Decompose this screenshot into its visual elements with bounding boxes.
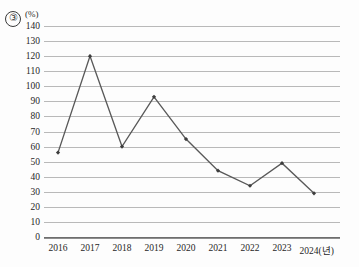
plot-area: 0102030405060708090100110120130140 20162… [44,26,340,237]
y-tick-label: 90 [31,96,41,106]
chart-figure: ③ (%) 0102030405060708090100110120130140… [0,0,359,267]
x-tick-label: 2016 [49,243,68,253]
y-tick-label: 30 [31,187,41,197]
y-tick-label: 130 [26,36,40,46]
y-tick-label: 110 [26,66,40,76]
y-tick-label: 40 [31,172,41,182]
x-tick-label: 2022 [241,243,260,253]
y-tick-label: 70 [31,127,41,137]
y-tick-label: 0 [35,232,40,242]
axis-baseline [44,237,340,238]
line-series-path [58,56,314,193]
y-tick-label: 60 [31,142,41,152]
x-tick-label: 2020 [177,243,196,253]
y-tick-label: 50 [31,157,41,167]
x-tick-label: 2018 [113,243,132,253]
y-axis-unit-label: (%) [25,9,39,19]
x-tick-label: 2019 [145,243,164,253]
x-tick-label: 2024(년) [300,243,334,257]
line-series-svg [44,26,340,237]
y-tick-label: 20 [31,202,41,212]
y-tick-label: 140 [26,21,40,31]
data-point-marker [88,54,92,58]
y-tick-label: 80 [31,111,41,121]
y-tick-label: 120 [26,51,40,61]
y-tick-label: 10 [31,217,41,227]
line-series-markers [56,54,316,195]
y-tick-label: 100 [26,81,40,91]
data-point-marker [56,151,60,155]
item-number-badge: ③ [5,11,21,27]
x-tick-label: 2021 [209,243,228,253]
x-tick-label: 2017 [81,243,100,253]
x-tick-label: 2023 [273,243,292,253]
